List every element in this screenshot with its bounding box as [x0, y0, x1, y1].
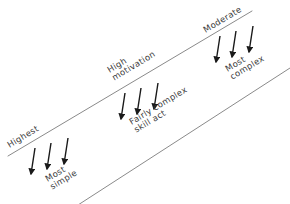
- down-arrow-icon: [232, 31, 236, 57]
- diagram-canvas: HighestMost simpleHigh motivationFairly …: [0, 0, 290, 204]
- upper-line: [8, 11, 252, 156]
- down-arrow-icon: [121, 93, 125, 119]
- down-arrow-icon: [64, 138, 68, 164]
- diagram-vector-layer: [0, 0, 290, 204]
- down-arrow-icon: [47, 143, 51, 169]
- down-arrow-icon: [216, 36, 220, 62]
- down-arrow-icon: [31, 148, 35, 174]
